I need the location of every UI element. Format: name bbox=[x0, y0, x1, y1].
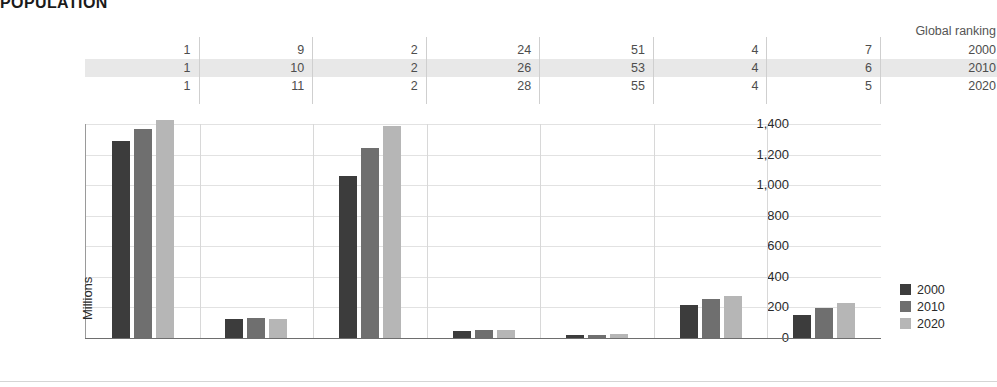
ranking-value: 1 bbox=[85, 59, 191, 77]
bar bbox=[566, 335, 584, 338]
y-axis-tick-label: 600 bbox=[729, 238, 789, 253]
bar bbox=[156, 120, 174, 338]
ranking-value: 9 bbox=[199, 41, 305, 59]
y-axis-tick-label: 400 bbox=[729, 269, 789, 284]
legend-item[interactable]: 2010 bbox=[900, 299, 945, 314]
ranking-separator bbox=[653, 37, 654, 104]
legend-swatch-icon bbox=[900, 301, 911, 312]
bar bbox=[837, 303, 855, 338]
x-axis-line bbox=[85, 338, 881, 339]
bar bbox=[134, 129, 152, 338]
page-title: POPULATION bbox=[0, 0, 108, 12]
legend-item[interactable]: 2020 bbox=[900, 316, 945, 331]
bar bbox=[339, 176, 357, 338]
bar bbox=[702, 299, 720, 338]
bar bbox=[724, 296, 742, 338]
category-separator bbox=[654, 124, 655, 338]
bar bbox=[588, 335, 606, 338]
ranking-value: 6 bbox=[766, 59, 872, 77]
ranking-value: 1 bbox=[85, 41, 191, 59]
bar bbox=[383, 126, 401, 338]
bottom-divider bbox=[0, 381, 997, 382]
population-chart-figure: POPULATION Global ranking 19224514720001… bbox=[0, 0, 997, 387]
y-axis-tick-label: 1,400 bbox=[729, 116, 789, 131]
category-separator bbox=[540, 124, 541, 338]
y-axis-tick-label: 1,000 bbox=[729, 177, 789, 192]
ranking-value: 51 bbox=[539, 41, 645, 59]
ranking-separator bbox=[426, 37, 427, 104]
bar bbox=[225, 319, 243, 338]
category-separator bbox=[200, 124, 201, 338]
ranking-value: 24 bbox=[426, 41, 532, 59]
bar bbox=[269, 319, 287, 338]
bar bbox=[112, 141, 130, 338]
ranking-value: 2 bbox=[312, 59, 418, 77]
ranking-row: 11122855452020 bbox=[85, 77, 997, 95]
ranking-value: 53 bbox=[539, 59, 645, 77]
legend-item[interactable]: 2000 bbox=[900, 282, 945, 297]
bar bbox=[793, 315, 811, 338]
y-axis-label: Millions bbox=[80, 277, 95, 320]
category-separator bbox=[767, 124, 768, 338]
bar bbox=[475, 330, 493, 338]
ranking-value: 4 bbox=[653, 41, 759, 59]
y-axis-tick-label: 1,200 bbox=[729, 147, 789, 162]
ranking-value: 10 bbox=[199, 59, 305, 77]
global-ranking-header: Global ranking bbox=[915, 24, 996, 38]
bar bbox=[815, 308, 833, 338]
legend-label: 2000 bbox=[917, 283, 945, 297]
bar bbox=[610, 334, 628, 338]
legend: 200020102020 bbox=[900, 282, 945, 333]
ranking-separator bbox=[199, 37, 200, 104]
ranking-value: 4 bbox=[653, 59, 759, 77]
ranking-value: 7 bbox=[766, 41, 872, 59]
ranking-value: 2 bbox=[312, 77, 418, 95]
global-ranking-table: Global ranking 1922451472000110226534620… bbox=[85, 24, 997, 104]
ranking-separator bbox=[766, 37, 767, 104]
ranking-separator bbox=[312, 37, 313, 104]
ranking-value: 28 bbox=[426, 77, 532, 95]
ranking-row: 11022653462010 bbox=[85, 59, 997, 77]
ranking-value: 4 bbox=[653, 77, 759, 95]
plot-area: 02004006008001,0001,2001,400 Millions Ch… bbox=[85, 124, 881, 338]
ranking-value: 11 bbox=[199, 77, 305, 95]
ranking-separator bbox=[880, 37, 881, 104]
ranking-value: 26 bbox=[426, 59, 532, 77]
legend-swatch-icon bbox=[900, 284, 911, 295]
legend-swatch-icon bbox=[900, 318, 911, 329]
category-separator bbox=[313, 124, 314, 338]
ranking-value: 5 bbox=[766, 77, 872, 95]
ranking-row: 1922451472000 bbox=[85, 41, 997, 59]
legend-label: 2010 bbox=[917, 300, 945, 314]
bar bbox=[497, 330, 515, 338]
category-separator bbox=[427, 124, 428, 338]
bar bbox=[247, 318, 265, 338]
ranking-value: 2 bbox=[312, 41, 418, 59]
bar bbox=[680, 305, 698, 338]
ranking-row-year: 2000 bbox=[968, 41, 996, 59]
legend-label: 2020 bbox=[917, 317, 945, 331]
ranking-row-year: 2010 bbox=[968, 59, 996, 77]
ranking-value: 55 bbox=[539, 77, 645, 95]
ranking-value: 1 bbox=[85, 77, 191, 95]
ranking-row-year: 2020 bbox=[968, 77, 996, 95]
bar bbox=[453, 331, 471, 338]
bar bbox=[361, 148, 379, 338]
ranking-separator bbox=[539, 37, 540, 104]
y-axis-tick-label: 800 bbox=[729, 208, 789, 223]
